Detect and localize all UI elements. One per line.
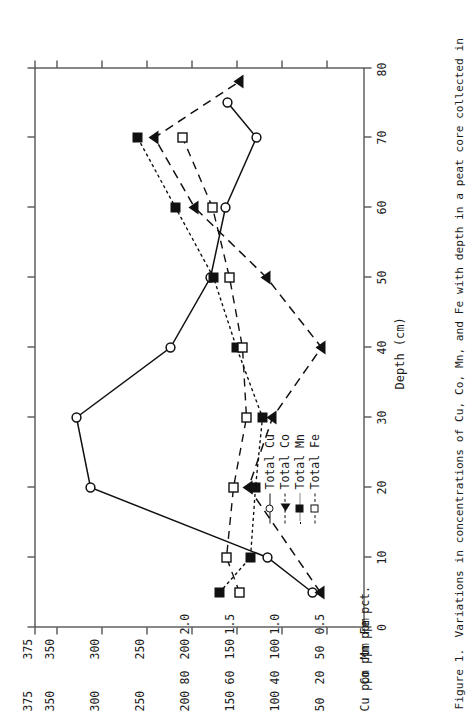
legend-item-total-co[interactable]: Total Co: [277, 434, 292, 523]
depth-tick-0: 0: [374, 624, 388, 631]
figure-label: Figure 1.: [451, 648, 466, 709]
legend-label-total-cu: Total Cu: [262, 434, 276, 489]
concentration-axis-ticks-right: [34, 59, 364, 67]
mn-tick-250: 250: [132, 638, 146, 659]
legend-item-total-cu[interactable]: Total Cu: [262, 434, 277, 523]
depth-tick-80: 80: [374, 62, 388, 76]
cu-tick-300: 300: [87, 690, 101, 711]
cu-tick-375: 375: [20, 690, 34, 711]
caption-line-1: Variations in concentrations of Cu, Co, …: [451, 38, 466, 637]
figure-caption: Figure 1. Variations in concentrations o…: [420, 9, 468, 709]
depth-tick-60: 60: [374, 200, 388, 214]
cu-tick-100: 100: [267, 690, 281, 711]
cu-tick-150: 150: [222, 690, 236, 711]
depth-tick-30: 30: [374, 410, 388, 424]
legend-label-total-fe: Total Fe: [307, 434, 321, 489]
legend-symbol-square-filled-icon: [299, 493, 300, 523]
legend-symbol-triangle-filled-icon: [284, 493, 285, 523]
cu-tick-200: 200: [177, 690, 191, 711]
mn-tick-50: 50: [312, 645, 326, 659]
depth-axis-title: Depth (cm): [392, 317, 406, 389]
depth-tick-40: 40: [374, 340, 388, 354]
legend-item-total-fe[interactable]: Total Fe: [307, 434, 322, 523]
co-tick-20: 20: [312, 670, 326, 684]
mn-tick-100: 100: [267, 638, 281, 659]
cu-tick-350: 350: [42, 690, 56, 711]
figure-canvas: Cu ppm Cu ppm 50 100 150 200 250 300 350…: [0, 0, 468, 719]
mn-tick-150: 150: [222, 638, 236, 659]
depth-tick-10: 10: [374, 550, 388, 564]
legend-label-total-co: Total Co: [277, 434, 291, 489]
mn-tick-200: 200: [177, 638, 191, 659]
mn-tick-375: 375: [20, 638, 34, 659]
depth-axis-ticks-top: [27, 67, 35, 627]
data-series-layer: [34, 67, 364, 627]
legend-label-total-mn: Total Mn: [292, 434, 306, 489]
mn-tick-300: 300: [87, 638, 101, 659]
figure-rotated-wrapper: Cu ppm Cu ppm 50 100 150 200 250 300 350…: [0, 0, 468, 719]
fe-tick-1-5: 1.5: [222, 613, 236, 634]
co-tick-60: 60: [222, 670, 236, 684]
fe-tick-2-0: 2.0: [177, 613, 191, 634]
fe-tick-1-0: 1.0: [267, 613, 281, 634]
co-tick-80: 80: [177, 670, 191, 684]
cu-tick-50: 50: [312, 697, 326, 711]
co-tick-40: 40: [267, 670, 281, 684]
depth-tick-70: 70: [374, 130, 388, 144]
depth-tick-20: 20: [374, 480, 388, 494]
depth-tick-50: 50: [374, 270, 388, 284]
depth-axis-ticks: [364, 67, 372, 627]
legend-item-total-mn[interactable]: Total Mn: [292, 434, 307, 523]
fe-tick-0-5: 0.5: [312, 613, 326, 634]
series-total-mn: [132, 132, 267, 597]
scale-label-fe: Fe pct.: [357, 574, 371, 634]
mn-tick-350: 350: [42, 638, 56, 659]
chart-legend: Total Cu Total Co Total Mn Total Fe: [262, 434, 322, 523]
legend-symbol-circle-open-icon: [269, 493, 270, 523]
cu-tick-250: 250: [132, 690, 146, 711]
legend-symbol-square-open-icon: [314, 493, 315, 523]
